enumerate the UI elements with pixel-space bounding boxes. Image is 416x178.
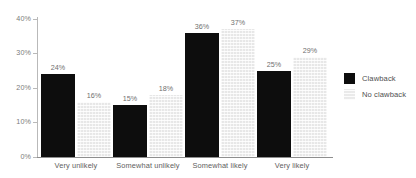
bar[interactable]: 36%	[185, 33, 219, 157]
legend-item-no-clawback[interactable]: No clawback	[344, 86, 416, 102]
bar-value-label: 24%	[51, 63, 66, 72]
bar-value-label: 29%	[303, 46, 318, 55]
y-axis-label-0-wrap: 0%	[0, 152, 31, 162]
legend-label-clawback: Clawback	[362, 74, 396, 83]
bar[interactable]: 15%	[113, 105, 147, 157]
light-swatch-icon	[344, 89, 355, 100]
x-axis-category-label: Very likely	[257, 161, 327, 170]
bar-group: 25%29%	[257, 14, 327, 157]
bar[interactable]: 29%	[293, 57, 327, 157]
bar[interactable]: 37%	[221, 29, 255, 157]
legend: Clawback No clawback	[344, 70, 416, 102]
y-axis-label-0: 0%	[3, 152, 31, 161]
bar[interactable]: 24%	[41, 74, 75, 157]
x-axis-category-label: Somewhat likely	[185, 161, 255, 170]
bar-chart: 40% 30% 20% 10% 0% 24%16%15%18%36%37%25%…	[0, 0, 416, 178]
y-axis-label-30: 30%	[3, 48, 31, 57]
x-axis-category-label: Very unlikely	[41, 161, 111, 170]
bar-group: 15%18%	[113, 14, 183, 157]
y-axis-label-10-wrap: 10%	[0, 117, 31, 127]
plot-area: 24%16%15%18%36%37%25%29%	[37, 14, 333, 157]
legend-item-clawback[interactable]: Clawback	[344, 70, 416, 86]
y-axis-label-20-wrap: 20%	[0, 83, 31, 93]
y-axis-label-40: 40%	[3, 14, 31, 23]
y-axis-label-10: 10%	[3, 117, 31, 126]
bar[interactable]: 16%	[77, 102, 111, 157]
legend-label-no-clawback: No clawback	[362, 90, 406, 99]
bar-value-label: 37%	[231, 18, 246, 27]
bar-group: 24%16%	[41, 14, 111, 157]
bar[interactable]: 18%	[149, 95, 183, 157]
x-axis-baseline	[37, 157, 333, 158]
dark-swatch-icon	[344, 73, 355, 84]
bar-value-label: 36%	[195, 22, 210, 31]
bar-value-label: 15%	[123, 94, 138, 103]
bar[interactable]: 25%	[257, 71, 291, 157]
y-axis-label-30-wrap: 30%	[0, 48, 31, 58]
bar-group: 36%37%	[185, 14, 255, 157]
bar-value-label: 18%	[159, 84, 174, 93]
y-axis-label-40-wrap: 40%	[0, 14, 31, 24]
y-axis-label-20: 20%	[3, 83, 31, 92]
bar-value-label: 25%	[267, 60, 282, 69]
bar-value-label: 16%	[87, 91, 102, 100]
x-axis-category-label: Somewhat unlikely	[113, 161, 183, 170]
